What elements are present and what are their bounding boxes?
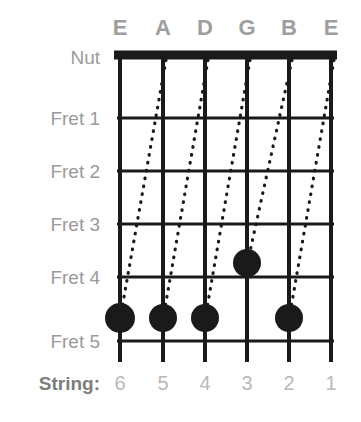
fret-label-4: Fret 4 bbox=[50, 268, 100, 287]
string-number-2: 2 bbox=[283, 373, 294, 393]
string-number-1: 1 bbox=[325, 373, 336, 393]
fret-label-5: Fret 5 bbox=[50, 332, 100, 351]
nut-bar bbox=[114, 51, 337, 60]
slide-2-to-1 bbox=[291, 60, 334, 308]
string-note-3: G bbox=[238, 17, 255, 39]
string-number-5: 5 bbox=[157, 373, 168, 393]
fret-label-3: Fret 3 bbox=[50, 215, 100, 234]
fret-label-1: Fret 1 bbox=[50, 109, 100, 128]
string-note-1: E bbox=[324, 17, 339, 39]
slide-5-to-4 bbox=[165, 60, 208, 308]
string-row-label: String: bbox=[39, 374, 100, 393]
dot-string-2-fret-5[interactable] bbox=[275, 304, 303, 332]
fretboard-diagram: EADGBENutFret 1Fret 2Fret 3Fret 4Fret 5S… bbox=[0, 0, 361, 422]
dot-string-6-fret-5[interactable] bbox=[105, 303, 135, 333]
slide-3-to-2 bbox=[249, 60, 292, 256]
string-note-6: E bbox=[113, 17, 128, 39]
dot-string-3-fret-4[interactable] bbox=[233, 249, 261, 277]
string-number-6: 6 bbox=[114, 373, 125, 393]
fretboard-svg bbox=[0, 0, 361, 422]
nut-label: Nut bbox=[70, 48, 100, 67]
dot-string-4-fret-5[interactable] bbox=[191, 304, 219, 332]
fret-label-2: Fret 2 bbox=[50, 162, 100, 181]
string-number-4: 4 bbox=[199, 373, 210, 393]
dot-string-5-fret-5[interactable] bbox=[149, 304, 177, 332]
string-number-3: 3 bbox=[241, 373, 252, 393]
slide-6-to-5 bbox=[122, 60, 166, 308]
string-note-4: D bbox=[197, 17, 213, 39]
string-note-5: A bbox=[155, 17, 171, 39]
string-note-2: B bbox=[281, 17, 297, 39]
